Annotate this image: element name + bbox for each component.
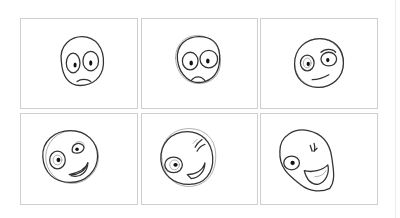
skeptical-face-icon — [261, 19, 377, 108]
storyboard-panel-1 — [20, 18, 138, 109]
storyboard-panel-6 — [260, 113, 378, 205]
storyboard-panel-5 — [141, 113, 258, 205]
wink-laugh-face-icon — [142, 114, 257, 204]
winking-grin-face-icon — [21, 114, 137, 204]
sad-face-icon — [142, 19, 257, 108]
storyboard-panel-4 — [20, 113, 138, 205]
big-laugh-face-icon — [261, 114, 377, 204]
storyboard-panel-2 — [141, 18, 258, 109]
page-edge-divider — [395, 0, 396, 218]
worried-face-icon — [21, 19, 137, 108]
storyboard-panel-3 — [260, 18, 378, 109]
